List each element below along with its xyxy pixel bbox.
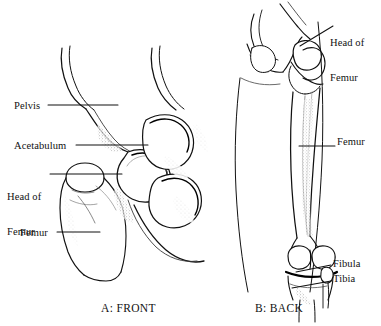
label-femur-back: Femur [337, 136, 365, 148]
leader-head-of-femur-b [300, 26, 333, 46]
label-femur-front: Femur [20, 227, 48, 239]
caption-panel-a: A: FRONT [101, 302, 156, 314]
caption-panel-b: B: BACK [255, 302, 303, 314]
panel-a-artwork [60, 46, 208, 281]
label-tibia: Tibia [333, 273, 355, 285]
label-head-of-femur-front-line1: Head of [7, 191, 41, 203]
label-acetabulum: Acetabulum [14, 140, 66, 152]
label-head-of-femur-back: Head of Femur [330, 14, 364, 106]
anatomy-figure: Pelvis Acetabulum Head of Femur Femur He… [0, 0, 381, 326]
panel-b-artwork [235, 2, 337, 322]
bone-illustration [0, 0, 381, 326]
label-head-of-femur-back-line2: Femur [330, 72, 364, 84]
label-pelvis: Pelvis [14, 100, 40, 112]
label-fibula: Fibula [333, 258, 360, 270]
label-head-of-femur-back-line1: Head of [330, 37, 364, 49]
label-head-of-femur-front: Head of Femur [7, 168, 41, 260]
